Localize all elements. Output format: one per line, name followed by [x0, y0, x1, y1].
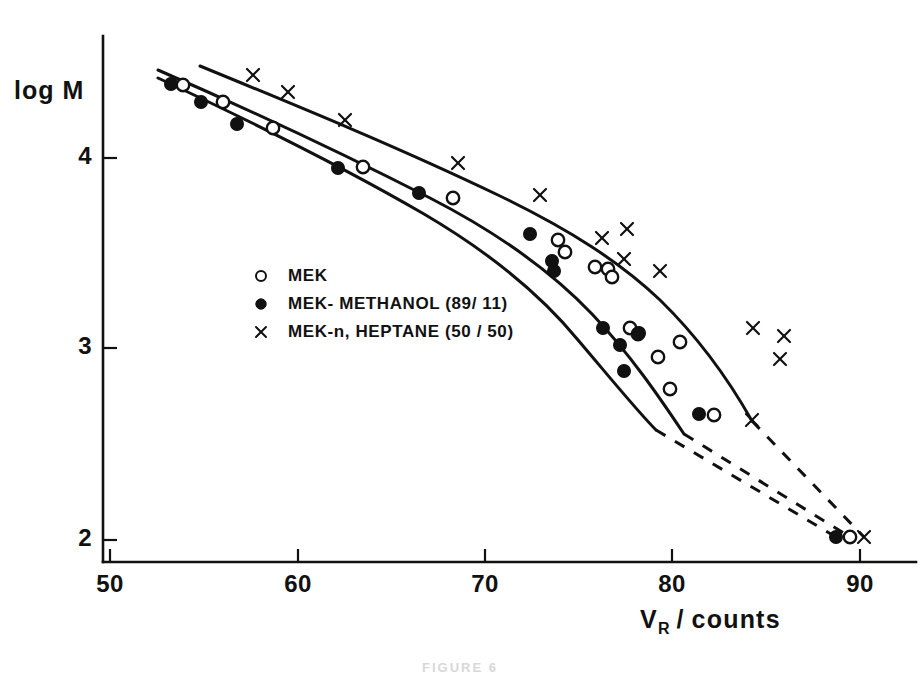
data-point-mek — [844, 531, 856, 543]
chart-legend: MEK MEK- METHANOL (89/ 11) MEK-n, HEPTAN… — [252, 262, 582, 346]
data-point-mek-methanol — [413, 187, 426, 200]
curve-dashed-mek — [684, 434, 850, 537]
x-axis-label-slash: / — [669, 605, 691, 633]
data-point-mek-methanol — [195, 96, 208, 109]
x-axis-label-main: V — [640, 605, 658, 633]
data-point-mek-n-heptane — [282, 86, 294, 98]
x-tick-label-90: 90 — [830, 570, 890, 598]
data-point-mek — [267, 122, 279, 134]
data-point-mek — [589, 261, 601, 273]
data-point-mek-n-heptane — [858, 531, 870, 543]
data-point-mek-n-heptane — [596, 232, 608, 244]
x-axis-label-unit: counts — [692, 605, 781, 633]
data-point-mek-n-heptane — [774, 353, 786, 365]
data-point-mek-n-heptane — [747, 322, 759, 334]
figure-caption: FIGURE 6 — [0, 660, 920, 679]
data-point-mek-n-heptane — [452, 157, 464, 169]
legend-label-mek-n-heptane: MEK-n, HEPTANE (50 / 50) — [288, 322, 514, 342]
data-point-mek-methanol — [524, 228, 537, 241]
x-axis-label-subscript: R — [658, 620, 670, 637]
data-point-mek-n-heptane — [746, 414, 758, 426]
data-point-mek-methanol — [618, 365, 631, 378]
y-tick-label-4: 4 — [52, 142, 92, 170]
data-point-mek-methanol — [165, 78, 178, 91]
data-point-mek — [664, 383, 676, 395]
x-tick-marks — [110, 549, 860, 562]
cross-icon — [252, 323, 288, 341]
data-point-mek-n-heptane — [621, 223, 633, 235]
data-point-mek-methanol — [633, 327, 646, 340]
legend-item-mek-methanol: MEK- METHANOL (89/ 11) — [252, 290, 582, 318]
data-point-mek — [447, 192, 459, 204]
data-point-mek-methanol — [693, 408, 706, 421]
curve-line-mek-methanol — [158, 78, 656, 430]
filled-circle-icon — [252, 295, 288, 313]
data-point-mek — [674, 336, 686, 348]
data-point-mek — [217, 96, 229, 108]
legend-label-mek-methanol: MEK- METHANOL (89/ 11) — [288, 294, 508, 314]
data-point-mek-n-heptane — [778, 330, 790, 342]
data-point-mek-n-heptane — [654, 265, 666, 277]
legend-item-mek-n-heptane: MEK-n, HEPTANE (50 / 50) — [252, 318, 582, 346]
data-point-mek-n-heptane — [247, 69, 259, 81]
x-tick-label-50: 50 — [80, 570, 140, 598]
data-point-mek — [559, 246, 571, 258]
data-point-mek — [552, 234, 564, 246]
data-point-mek-methanol — [332, 162, 345, 175]
data-point-mek — [606, 271, 618, 283]
data-point-mek-methanol — [614, 339, 627, 352]
curve-line-mek-n-heptane — [200, 66, 752, 421]
y-axis-label: log M — [14, 76, 84, 105]
figure-container: log M VR/counts 4 3 2 50 60 70 80 90 MEK… — [0, 0, 920, 679]
data-point-mek — [708, 409, 720, 421]
data-point-mek-n-heptane — [534, 189, 546, 201]
data-point-mek-methanol — [597, 322, 610, 335]
data-point-mek-n-heptane — [339, 114, 351, 126]
data-point-mek-n-heptane — [618, 253, 630, 265]
x-tick-label-80: 80 — [642, 570, 702, 598]
open-circle-icon — [252, 267, 288, 285]
legend-label-mek: MEK — [288, 266, 328, 286]
data-point-mek — [177, 79, 189, 91]
legend-item-mek: MEK — [252, 262, 582, 290]
x-tick-label-70: 70 — [455, 570, 515, 598]
x-tick-label-60: 60 — [268, 570, 328, 598]
data-point-mek-methanol — [231, 118, 244, 131]
y-tick-marks — [103, 158, 117, 540]
data-point-mek — [652, 351, 664, 363]
data-point-mek — [357, 161, 369, 173]
x-axis-label: VR/counts — [640, 605, 781, 638]
data-point-mek-methanol — [830, 531, 843, 544]
curve-dashed-mek-methanol — [656, 430, 836, 537]
y-tick-label-3: 3 — [52, 332, 92, 360]
y-tick-label-2: 2 — [52, 524, 92, 552]
